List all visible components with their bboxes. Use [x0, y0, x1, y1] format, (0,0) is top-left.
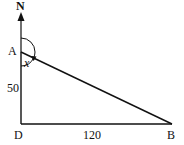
- edge-AB: [21, 52, 172, 124]
- label-DB-length: 120: [83, 129, 101, 141]
- north-arrow-icon: [18, 12, 25, 21]
- label-D: D: [14, 129, 23, 141]
- label-A: A: [8, 45, 17, 57]
- label-angle-x: x: [24, 57, 29, 69]
- label-AD-length: 50: [7, 82, 19, 94]
- label-B: B: [167, 129, 175, 141]
- label-N: N: [16, 0, 25, 12]
- diagram-canvas: [0, 0, 184, 145]
